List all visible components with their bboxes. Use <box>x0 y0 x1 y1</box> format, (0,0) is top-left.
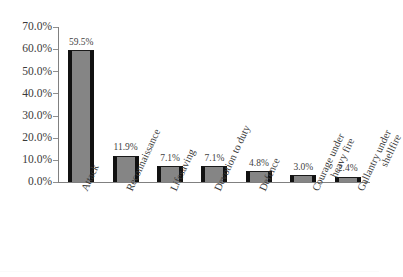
y-axis-tick-mark <box>53 27 58 28</box>
bar-value-label: 3.0% <box>293 163 313 173</box>
y-axis-tick-mark <box>53 93 58 94</box>
footer-divider <box>0 271 379 272</box>
x-axis-tick-label-slot: Devotion to duty <box>192 186 236 277</box>
x-axis-tick-label-slot: Defence <box>237 186 281 277</box>
x-axis-tick-label-slot: Attack <box>59 186 103 277</box>
y-axis-tick-mark <box>53 160 58 161</box>
bar-value-label: 7.1% <box>160 154 180 164</box>
y-axis-tick-mark <box>53 116 58 117</box>
bar-group: 59.5% <box>59 27 103 182</box>
y-axis-tick-mark <box>53 182 58 183</box>
x-axis-tick-label-slot: Gallantry undershellfire <box>326 186 370 277</box>
bar-value-label: 59.5% <box>69 38 94 48</box>
x-axis-tick-labels: AttackReconnaissanceLifesavingDevotion t… <box>59 186 370 277</box>
y-axis-tick-mark <box>53 49 58 50</box>
x-axis-tick-label-slot: Reconnaissance <box>103 186 147 277</box>
x-axis-tick-label-slot: Lifesaving <box>148 186 192 277</box>
bar-group: 3.0% <box>281 27 325 182</box>
y-axis-tick-mark <box>53 71 58 72</box>
bar-value-label: 7.1% <box>205 154 225 164</box>
x-axis-tick-label-slot: Courage underheavy fire <box>281 186 325 277</box>
y-axis-tick-mark <box>53 138 58 139</box>
bar-value-label: 11.9% <box>114 143 138 153</box>
